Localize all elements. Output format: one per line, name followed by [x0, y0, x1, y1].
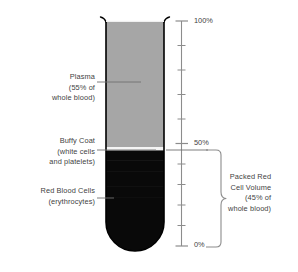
packed-red-cell-volume-label: Packed Red Cell Volume (45% of whole blo… [228, 172, 271, 214]
blood-composition-diagram: Plasma (55% of whole blood) Buffy Coat (… [0, 0, 298, 272]
rbc-striation [105, 160, 165, 161]
plasma-label-line: (55% of [52, 83, 95, 94]
plasma-layer [105, 20, 165, 148]
tube-contents [105, 20, 165, 254]
packed-red-cell-volume-label-line: Cell Volume [228, 183, 271, 194]
tube-lip-right [164, 17, 170, 22]
red-blood-cells-label-line: (erythrocytes) [41, 197, 96, 208]
plasma-label: Plasma (55% of whole blood) [52, 72, 95, 104]
buffy-coat-label-line: Buffy Coat [49, 136, 95, 147]
red-blood-cells-label: Red Blood Cells (erythrocytes) [41, 186, 96, 207]
scale-label-50: 50% [194, 138, 209, 147]
buffy-coat-label-line: (white cells [49, 147, 95, 158]
buffy-coat-label-line: and platelets) [49, 157, 95, 168]
red-blood-cells-label-line: Red Blood Cells [41, 186, 96, 197]
packed-red-cell-volume-label-line: Packed Red [228, 172, 271, 183]
plasma-label-line: whole blood) [52, 93, 95, 104]
packed-red-cell-volume-label-line: whole blood) [228, 204, 271, 215]
scale-label-100: 100% [194, 16, 213, 25]
packed-red-cell-volume-bracket [206, 150, 226, 247]
scale-label-0: 0% [194, 240, 205, 249]
red-blood-cells-layer [105, 150, 165, 254]
rbc-striation [105, 171, 165, 172]
buffy-coat-label: Buffy Coat (white cells and platelets) [49, 136, 95, 168]
diagram-canvas [0, 0, 298, 272]
plasma-label-line: Plasma [52, 72, 95, 83]
packed-red-cell-volume-label-line: (45% of [228, 193, 271, 204]
rbc-striation [105, 186, 165, 187]
tube-lip-left [101, 17, 107, 22]
